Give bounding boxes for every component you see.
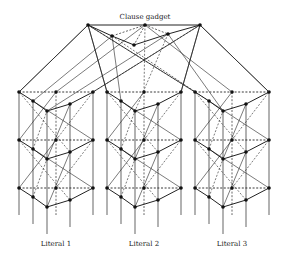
clause-gadget-label: Clause gadget [120, 13, 171, 21]
literal-2-label: Literal 2 [129, 240, 159, 248]
literal-3-label: Literal 3 [217, 240, 247, 248]
clause-gadget-graph [0, 0, 287, 261]
literal-1-label: Literal 1 [41, 240, 71, 248]
diagram-canvas: Clause gadget Literal 1 Literal 2 Litera… [0, 0, 287, 261]
